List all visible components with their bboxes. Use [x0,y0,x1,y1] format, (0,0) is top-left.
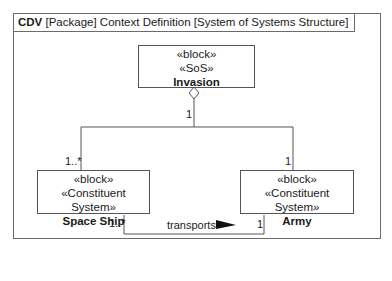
stereotype: «block» [38,172,149,186]
stereotype: «SoS» [139,61,254,75]
block-name: Space Ship [38,214,149,228]
stereotype: «Constituent System» [241,186,353,214]
direction-arrow-icon [216,220,236,229]
stereotype: «block» [241,172,353,186]
multiplicity-whole: 1 [186,108,192,120]
connectors [0,0,392,281]
block-invasion[interactable]: «block» «SoS» Invasion [138,45,255,88]
block-army[interactable]: «block» «Constituent System» Army [240,170,354,214]
multiplicity-army-end: 1 [257,218,263,230]
multiplicity-space-ship-part: 1..* [65,155,82,167]
stereotype: «Constituent System» [38,186,149,214]
stereotype: «block» [139,47,254,61]
block-name: Invasion [139,75,254,89]
association-label: transports [167,219,216,231]
multiplicity-army-part: 1 [285,155,291,167]
multiplicity-space-ship-end: 1..* [109,217,126,229]
block-space-ship[interactable]: «block» «Constituent System» Space Ship [37,170,150,214]
